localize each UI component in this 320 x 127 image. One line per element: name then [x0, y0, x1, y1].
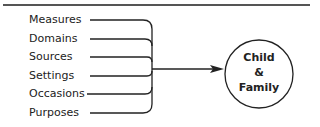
input-label-measures: Measures	[29, 14, 81, 26]
top-rule	[3, 4, 310, 6]
input-label-settings: Settings	[29, 70, 74, 82]
input-label-domains: Domains	[29, 33, 77, 45]
target-label-line1: Child	[224, 51, 294, 65]
input-label-occasions: Occasions	[29, 88, 85, 100]
input-label-purposes: Purposes	[29, 107, 79, 119]
target-label-line2: &	[224, 66, 294, 80]
target-label-line3: Family	[224, 81, 294, 95]
connector-lines	[87, 20, 152, 113]
input-label-sources: Sources	[29, 51, 73, 63]
